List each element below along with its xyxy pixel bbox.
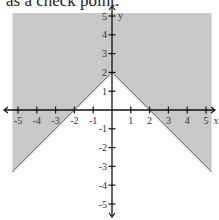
x-tick-label: 3 — [166, 115, 171, 126]
y-tick-label: -4 — [99, 180, 107, 191]
y-tick-label: -2 — [99, 142, 107, 153]
x-tick-label: -1 — [89, 115, 97, 126]
x-tick-label: 4 — [185, 115, 190, 126]
y-tick-label: 1 — [102, 86, 107, 97]
y-tick-label: 5 — [102, 11, 107, 22]
x-tick-label: 1 — [128, 115, 133, 126]
y-tick-label: -1 — [99, 123, 107, 134]
x-tick-label: -5 — [14, 115, 22, 126]
y-axis-label: y — [118, 10, 123, 21]
x-tick-label: 2 — [147, 115, 152, 126]
y-tick-label: -3 — [99, 161, 107, 172]
x-tick-label: -2 — [70, 115, 78, 126]
y-tick-label: 3 — [102, 48, 107, 59]
y-tick-label: -5 — [99, 199, 107, 210]
y-tick-label: 2 — [102, 67, 107, 78]
inequality-graph: -5-4-3-2-112345-5-4-3-2-112345xy — [0, 0, 219, 220]
y-tick-label: 4 — [102, 29, 107, 40]
x-axis-label: x — [214, 115, 219, 126]
x-tick-label: -4 — [33, 115, 41, 126]
x-tick-label: -3 — [51, 115, 59, 126]
x-tick-label: 5 — [204, 115, 209, 126]
